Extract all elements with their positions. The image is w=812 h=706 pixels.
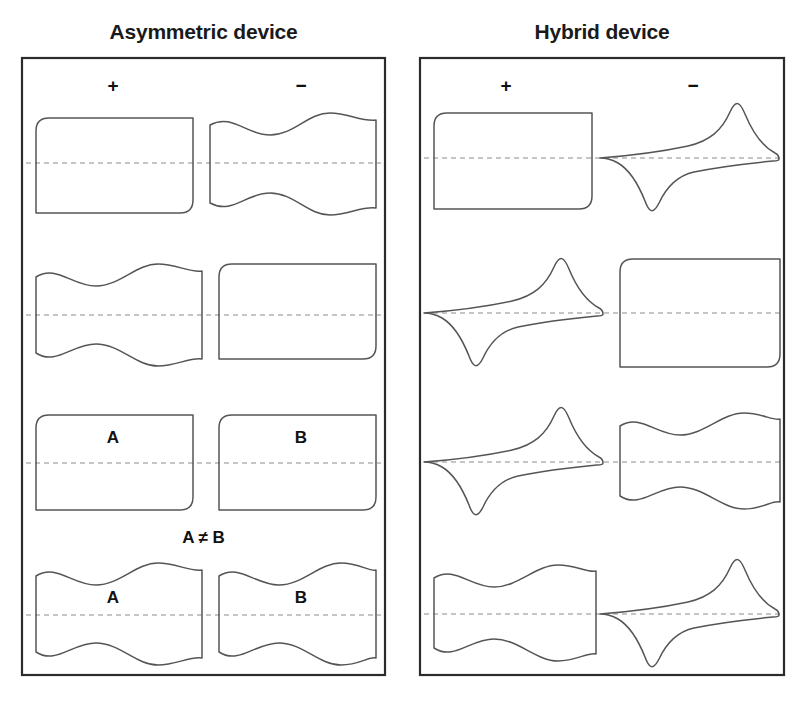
cv-hyb-row4-negative bbox=[600, 560, 779, 667]
cv-hyb-row2-positive bbox=[424, 259, 603, 366]
cell-label-b-row3: B bbox=[281, 428, 321, 448]
cv-asym-row2-positive bbox=[36, 264, 202, 366]
cv-asym-row4-positive bbox=[36, 563, 202, 665]
a-not-equal-b-note: A ≠ B bbox=[22, 528, 385, 548]
cv-hyb-row4-positive bbox=[434, 565, 596, 661]
polarity-positive-asymmetric: + bbox=[93, 76, 133, 95]
cell-label-b-row4: B bbox=[281, 588, 321, 608]
figure-root: Asymmetric device Hybrid device + − + − … bbox=[0, 0, 812, 706]
cv-hyb-row3-positive bbox=[424, 408, 603, 515]
panel-title-hybrid: Hybrid device bbox=[420, 20, 784, 44]
cv-hyb-row3-negative bbox=[620, 413, 780, 509]
cv-asym-row4-negative bbox=[219, 563, 376, 665]
polarity-positive-hybrid: + bbox=[486, 76, 526, 95]
cv-hyb-row2-negative bbox=[620, 259, 780, 367]
cv-asym-row1-positive bbox=[36, 118, 193, 213]
panel-title-asymmetric: Asymmetric device bbox=[22, 20, 385, 44]
cell-label-a-row4: A bbox=[93, 588, 133, 608]
cv-asym-row1-negative bbox=[210, 113, 376, 215]
cv-hyb-row1-negative bbox=[600, 104, 779, 211]
cv-asym-row2-negative bbox=[219, 264, 376, 359]
polarity-negative-hybrid: − bbox=[673, 76, 713, 95]
polarity-negative-asymmetric: − bbox=[281, 76, 321, 95]
cell-label-a-row3: A bbox=[93, 428, 133, 448]
panel-border-hybrid bbox=[420, 58, 784, 675]
cv-hyb-row1-positive bbox=[434, 113, 592, 209]
panel-border-asymmetric bbox=[22, 58, 385, 675]
